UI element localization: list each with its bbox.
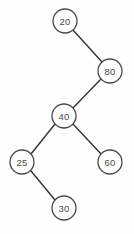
edge-20-to-80 — [73, 30, 102, 62]
node-label-80: 80 — [105, 66, 116, 77]
edge-40-to-60 — [73, 124, 101, 154]
node-label-40: 40 — [59, 111, 70, 122]
node-40[interactable]: 40 — [52, 104, 76, 128]
edge-40-to-25 — [31, 124, 55, 154]
node-25[interactable]: 25 — [10, 150, 34, 174]
edge-80-to-40 — [73, 79, 101, 108]
edge-25-to-30 — [31, 171, 55, 200]
node-80[interactable]: 80 — [98, 59, 122, 83]
node-root-20[interactable]: 20 — [53, 9, 77, 33]
tree-canvas: 20 80 40 25 60 30 — [0, 0, 134, 234]
node-30[interactable]: 30 — [52, 196, 76, 220]
binary-search-tree-diagram: 20 80 40 25 60 30 — [0, 0, 134, 234]
node-label-20: 20 — [60, 16, 71, 27]
node-label-25: 25 — [17, 157, 28, 168]
node-label-60: 60 — [105, 157, 116, 168]
node-label-30: 30 — [59, 203, 70, 214]
node-60[interactable]: 60 — [98, 150, 122, 174]
